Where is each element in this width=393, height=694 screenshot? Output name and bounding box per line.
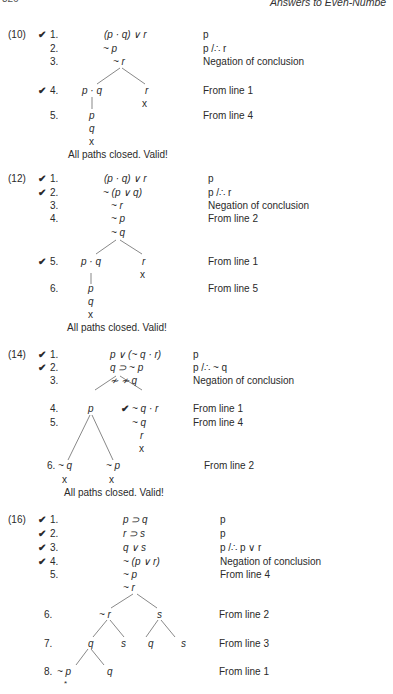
justification: p /∴ ~ q: [193, 363, 227, 373]
line-number: 3.: [50, 201, 58, 211]
tree-node: s: [181, 639, 186, 649]
line-number: 3.: [50, 543, 58, 553]
line-number: 5.: [50, 111, 58, 121]
line-number: 4.: [50, 86, 58, 96]
check-icon: ✔: [38, 363, 46, 373]
line-number: 5.: [50, 570, 58, 580]
line-number: 6.: [50, 284, 58, 294]
open-path-mark: *: [64, 680, 67, 688]
formula-left-branch: p · q: [82, 86, 102, 96]
check-icon: ✔: [121, 404, 129, 414]
formula: q: [89, 124, 95, 134]
line-number: 6.: [47, 461, 55, 471]
formula: ~ q: [132, 418, 146, 428]
problem-label: (10): [8, 30, 26, 40]
formula-right-branch: s: [157, 610, 162, 620]
justification: p /∴ p ∨ r: [220, 543, 261, 553]
closed-mark: x: [140, 270, 145, 280]
closed-mark: x: [62, 475, 67, 485]
formula: ~ p: [103, 44, 117, 54]
justification: From line 2: [208, 214, 258, 224]
tree-branch-lines: [0, 0, 393, 694]
check-icon: ✔: [38, 30, 46, 40]
problem-label: (12): [8, 174, 26, 184]
line-number: 4.: [50, 404, 58, 414]
justification: Negation of conclusion: [220, 557, 321, 567]
formula: p: [89, 111, 95, 121]
formula-left-branch: p: [88, 404, 94, 414]
check-icon: ✔: [38, 557, 46, 567]
formula-left-branch: ~ q: [58, 461, 72, 471]
line-number: 4.: [50, 214, 58, 224]
closed-mark: x: [88, 310, 93, 320]
justification: From line 3: [219, 639, 269, 649]
line-number: 2.: [50, 188, 58, 198]
conclusion-text: All paths closed. Valid!: [68, 150, 168, 160]
tree-node: q: [148, 639, 154, 649]
formula: ~ p: [123, 570, 137, 580]
line-number: 1.: [50, 174, 58, 184]
justification: p /∴ r: [203, 44, 226, 54]
justification: From line 4: [203, 111, 253, 121]
justification: From line 4: [193, 418, 243, 428]
justification: From line 2: [204, 461, 254, 471]
formula-right-branch: r: [145, 86, 148, 96]
check-icon: ✔: [38, 188, 46, 198]
line-number: 7.: [44, 639, 52, 649]
line-number: 2.: [50, 44, 58, 54]
formula: ≁ ≁ q: [110, 376, 137, 386]
formula-right-branch: ~ p: [106, 461, 120, 471]
formula: q: [88, 297, 94, 307]
formula: q ∨ s: [123, 543, 146, 553]
formula: ~ (p ∨ q): [103, 188, 142, 198]
check-icon: ✔: [38, 350, 46, 360]
justification: p: [220, 515, 226, 525]
justification: p /∴ r: [208, 188, 231, 198]
closed-mark: x: [142, 99, 147, 109]
tree-node: s: [121, 639, 126, 649]
justification: p: [220, 529, 226, 539]
justification: From line 1: [203, 86, 253, 96]
justification: p: [203, 30, 209, 40]
line-number: 2.: [50, 363, 58, 373]
formula-left-branch: p · q: [81, 257, 101, 267]
line-number: 6.: [44, 610, 52, 620]
line-number: 1.: [50, 350, 58, 360]
justification: From line 5: [208, 284, 258, 294]
justification: Negation of conclusion: [208, 201, 309, 211]
justification: p: [193, 350, 199, 360]
formula: r ⊃ s: [123, 529, 145, 539]
justification: Negation of conclusion: [193, 376, 294, 386]
line-number: 1.: [50, 30, 58, 40]
check-icon: ✔: [38, 86, 46, 96]
check-icon: ✔: [38, 543, 46, 553]
line-number: 2.: [50, 529, 58, 539]
justification: From line 1: [193, 404, 243, 414]
formula-right-branch: q: [107, 667, 113, 677]
line-number: 1.: [50, 515, 58, 525]
justification: p: [208, 174, 214, 184]
formula-right-branch: r: [142, 257, 145, 267]
justification: From line 2: [219, 610, 269, 620]
formula: p: [88, 284, 94, 294]
line-number: 3.: [50, 57, 58, 67]
justification: Negation of conclusion: [203, 57, 304, 67]
problem-label: (16): [8, 515, 26, 525]
check-icon: ✔: [38, 257, 46, 267]
formula: ~ q: [111, 228, 125, 238]
check-icon: ✔: [38, 515, 46, 525]
formula: q ⊃ ~ p: [110, 363, 143, 373]
closed-mark: x: [109, 475, 114, 485]
closed-mark: x: [89, 137, 94, 147]
formula: (p · q) ∨ r: [104, 174, 147, 184]
justification: From line 1: [219, 667, 269, 677]
line-number: 4.: [50, 557, 58, 567]
formula-left-branch: ~ p: [57, 667, 71, 677]
line-number: 3.: [50, 376, 58, 386]
check-icon: ✔: [38, 174, 46, 184]
justification: From line 4: [220, 570, 270, 580]
formula-left-branch: ~ r: [99, 610, 111, 620]
formula: (p · q) ∨ r: [104, 30, 147, 40]
conclusion-text: All paths closed. Valid!: [64, 488, 164, 498]
check-icon: ✔: [38, 529, 46, 539]
